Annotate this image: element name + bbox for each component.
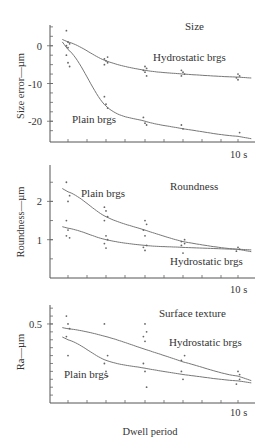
roundness-data-point (69, 237, 71, 239)
size-data-point (237, 79, 239, 81)
roundness-curve-hydrostatic-brgs (62, 227, 251, 250)
surface-hydrostatic-label: Hydrostatic brgs (169, 336, 242, 348)
surface-data-point (104, 323, 106, 325)
surface-plain-label: Plain brgs (64, 368, 108, 380)
size-data-point (181, 75, 183, 77)
roundness-hydrostatic-label: Hydrostatic brgs (170, 255, 243, 267)
size-data-point (146, 124, 148, 126)
surface-data-point (181, 359, 183, 361)
roundness-data-point (237, 246, 239, 248)
surface-data-point (67, 355, 69, 357)
size-data-point (144, 122, 146, 124)
size-y-ticks: 0-10-20 (28, 27, 53, 131)
surface-data-point (107, 355, 109, 357)
size-data-point (67, 62, 69, 64)
size-data-point (144, 66, 146, 68)
size-data-point (184, 73, 186, 75)
size-data-point (66, 30, 68, 32)
size-data-point (107, 62, 109, 64)
roundness-data-point (184, 239, 186, 241)
surface-data-point (146, 386, 148, 388)
roundness-data-point (239, 248, 241, 250)
roundness-data-point (236, 250, 238, 252)
surface-data-point (144, 370, 146, 372)
size-hydrostatic-label: Hydrostatic brgs (153, 51, 226, 63)
size-data-point (182, 128, 184, 130)
roundness-x-end-label: 10 s (230, 284, 247, 295)
roundness-panel: 21 Roundness Plain brgs Hydrostatic brgs… (15, 165, 255, 295)
size-y-label: Size error—µm (15, 53, 26, 119)
roundness-data-point (105, 235, 107, 237)
size-data-point (105, 103, 107, 105)
x-axis-title: Dwell period (122, 426, 178, 437)
surface-data-point (104, 363, 106, 365)
size-data-point (181, 69, 183, 71)
size-data-point (104, 58, 106, 60)
roundness-data-point (143, 229, 145, 231)
size-data-point (104, 64, 106, 66)
roundness-data-point (66, 220, 68, 222)
surface-data-point (144, 323, 146, 325)
surface-x-end-label: 10 s (230, 407, 247, 418)
roundness-data-point (104, 206, 106, 208)
roundness-data-point (184, 243, 186, 245)
surface-y-ticks: 0.5 (29, 308, 53, 395)
surface-data-point (236, 383, 238, 385)
size-panel: 0-10-20 Size Hydrostatic brgs Plain brgs… (15, 20, 255, 160)
size-data-point (105, 60, 107, 62)
roundness-data-point (105, 210, 107, 212)
roundness-data-point (181, 241, 183, 243)
size-data-point (144, 71, 146, 73)
roundness-data-point (67, 229, 69, 231)
size-data-point (181, 124, 183, 126)
roundness-data-point (144, 235, 146, 237)
size-y-tick-label: -20 (28, 116, 42, 127)
surface-data-point (181, 370, 183, 372)
roundness-data-point (66, 235, 68, 237)
size-x-end-label: 10 s (230, 149, 247, 160)
roundness-data-point (105, 247, 107, 249)
size-data-point (69, 66, 71, 68)
size-data-point (66, 54, 68, 56)
size-data-point (143, 117, 145, 119)
size-data-point (66, 45, 68, 47)
surface-data-point (184, 355, 186, 357)
surface-y-label: Ra—µm (15, 334, 26, 370)
surface-texture-panel: 0.5 Surface texture Hydrostatic brgs Pla… (15, 305, 255, 437)
size-data-point (107, 107, 109, 109)
size-data-point (236, 77, 238, 79)
roundness-data-point (104, 243, 106, 245)
surface-data-point (69, 328, 71, 330)
roundness-data-point (104, 220, 106, 222)
roundness-data-point (144, 250, 146, 252)
size-data-point (146, 75, 148, 77)
size-data-point (143, 69, 145, 71)
size-plain-label: Plain brgs (72, 113, 116, 125)
size-data-point (104, 96, 106, 98)
size-y-tick-label: -10 (28, 79, 42, 90)
size-data-point (182, 71, 184, 73)
surface-data-point (143, 336, 145, 338)
surface-data-point (66, 315, 68, 317)
size-data-point (69, 43, 71, 45)
roundness-data-point (146, 223, 148, 225)
size-data-point (239, 132, 241, 134)
roundness-data-point (182, 252, 184, 254)
roundness-title: Roundness (170, 180, 218, 192)
size-data-point (239, 75, 241, 77)
size-data-point (107, 56, 109, 58)
surface-data-point (146, 331, 148, 333)
roundness-data-point (143, 246, 145, 248)
figure: 0-10-20 Size Hydrostatic brgs Plain brgs… (0, 0, 271, 448)
surface-data-point (143, 363, 145, 365)
surface-data-point (239, 378, 241, 380)
roundness-y-label: Roundness—µm (15, 187, 26, 258)
roundness-data-point (146, 245, 148, 247)
roundness-data-point (181, 245, 183, 247)
size-data-point (146, 68, 148, 70)
roundness-y-tick-label: 1 (37, 235, 42, 246)
size-y-tick-label: 0 (37, 41, 42, 52)
surface-data-point (144, 340, 146, 342)
size-title: Size (185, 20, 204, 32)
size-data-point (237, 73, 239, 75)
